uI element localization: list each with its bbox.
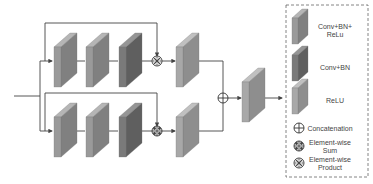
op-ring: [295, 162, 298, 165]
legend-label: Concatenation: [307, 125, 352, 132]
block-front-face: [119, 117, 126, 157]
top-post-block: [176, 33, 199, 87]
op-dot: [295, 142, 298, 145]
block-front-face: [119, 47, 126, 87]
top-merge-op: [152, 56, 162, 66]
block-front-face: [176, 47, 183, 87]
legend-item-concatenation: Concatenation: [294, 123, 353, 133]
legend-label: Conv+BN+: [318, 23, 352, 30]
legend-relu-swatch: [292, 79, 308, 114]
block-front-face: [54, 117, 61, 157]
op-ring: [153, 60, 156, 63]
op-ring: [298, 159, 301, 162]
op-dot: [153, 132, 156, 135]
legend-label: Element-wise: [309, 156, 351, 163]
legend-label: ReLU: [326, 97, 344, 104]
bottom-merge-op: [152, 126, 162, 136]
legend-label: Element-wise: [309, 139, 351, 146]
block-front-face: [86, 117, 93, 157]
legend-label: ReLu: [327, 31, 344, 38]
diagram-canvas: Conv+BN+ReLuConv+BNReLUConcatenationElem…: [0, 0, 373, 184]
bottom-branch-block-2: [86, 103, 109, 157]
top-branch-block-3: [119, 33, 142, 87]
legend-item-element-wise-product: Element-wiseProduct: [294, 156, 351, 171]
fusion-op: [218, 93, 228, 103]
op-ring: [298, 165, 301, 168]
legend-item-conv_bn: Conv+BN: [292, 46, 350, 81]
op-dot: [300, 147, 303, 150]
block-front-face: [86, 47, 93, 87]
legend-item-relu: ReLU: [292, 79, 344, 114]
op-ring: [156, 57, 159, 60]
legend-label: Sum: [323, 147, 338, 154]
split-bottom-line: [40, 96, 52, 131]
split-top-line: [40, 61, 52, 96]
output-block: [242, 68, 265, 122]
block-front-face: [242, 82, 249, 122]
top-branch-block-1: [54, 33, 77, 87]
op-dot: [300, 142, 303, 145]
op-dot: [295, 147, 298, 150]
op-ring: [156, 63, 159, 66]
legend-conv_bn-swatch: [292, 46, 308, 81]
legend-conv_bn_relu-swatch: [292, 9, 308, 44]
top-branch-block-2: [86, 33, 109, 87]
bottom-post-block: [176, 103, 199, 157]
op-dot: [158, 132, 161, 135]
legend-label: Conv+BN: [320, 64, 350, 71]
block-front-face: [292, 18, 298, 44]
op-dot: [158, 127, 161, 130]
bottom-branch-block-1: [54, 103, 77, 157]
legend-item-conv_bn_relu: Conv+BN+ReLu: [292, 9, 352, 44]
circle-cross-dots-icon: [294, 141, 304, 151]
op-dot: [153, 127, 156, 130]
legend-label: Product: [318, 164, 342, 171]
block-front-face: [292, 88, 298, 114]
legend-item-element-wise-sum: Element-wiseSum: [294, 139, 351, 154]
circle-plus-icon: [294, 123, 304, 133]
circle-x-icon: [294, 158, 304, 168]
legend: Conv+BN+ReLuConv+BNReLUConcatenationElem…: [286, 5, 368, 177]
block-front-face: [292, 55, 298, 81]
op-ring: [159, 60, 162, 63]
block-front-face: [54, 47, 61, 87]
block-front-face: [176, 117, 183, 157]
op-ring: [301, 162, 304, 165]
layer-blocks: [54, 33, 265, 157]
bottom-branch-block-3: [119, 103, 142, 157]
